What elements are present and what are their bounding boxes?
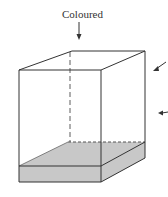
side-arrow-icon	[153, 62, 166, 71]
top-arrow-icon	[77, 22, 82, 40]
box-diagram	[0, 0, 168, 197]
side-arrow-icon	[158, 111, 168, 116]
coloured-slab	[19, 142, 145, 182]
